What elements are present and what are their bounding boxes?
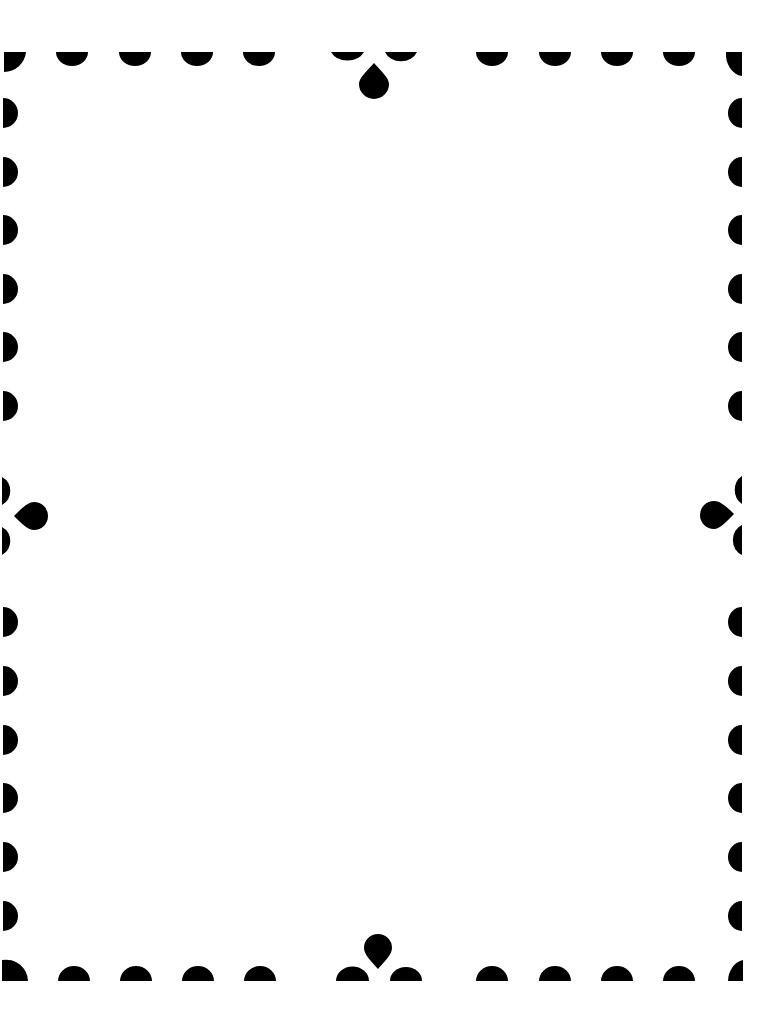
scallop-icon xyxy=(3,783,18,813)
scallop-icon xyxy=(3,901,18,931)
scallop-icon xyxy=(244,966,276,981)
scallop-icon xyxy=(728,842,742,872)
top-center-ornament xyxy=(331,52,417,99)
left-middle-ornament xyxy=(2,477,48,555)
scallop-icon xyxy=(728,901,742,931)
decorative-border-frame xyxy=(0,0,784,1029)
scallop-icon xyxy=(3,666,18,696)
scallop-icon xyxy=(728,157,742,187)
scallop-icon xyxy=(56,52,88,66)
scallop-icon xyxy=(728,666,742,696)
scallop-icon xyxy=(539,52,571,66)
scallop-icon xyxy=(3,157,18,187)
top-right-corner-ornament xyxy=(726,52,742,76)
scallop-icon xyxy=(728,98,742,128)
scallop-icon xyxy=(601,52,633,66)
scallop-icon xyxy=(728,607,742,637)
top-left-corner-ornament xyxy=(4,52,26,72)
scallop-icon xyxy=(3,725,18,755)
scallop-icon xyxy=(3,274,18,304)
scallop-icon xyxy=(3,215,18,245)
scallop-icon xyxy=(476,52,508,66)
scallop-icon xyxy=(663,966,695,981)
scallop-icon xyxy=(120,966,152,981)
scallop-icon xyxy=(728,332,742,362)
scallop-icon xyxy=(3,607,18,637)
scallop-icon xyxy=(728,215,742,245)
scallop-icon xyxy=(182,966,214,981)
scallop-icon xyxy=(476,966,508,981)
bottom-right-corner-ornament xyxy=(728,960,743,981)
scallop-icon xyxy=(601,966,633,981)
scallop-icon xyxy=(728,783,742,813)
scallop-icon xyxy=(3,98,18,128)
scallop-icon xyxy=(181,52,213,66)
scallop-icon xyxy=(539,966,571,981)
bottom-scallop-row xyxy=(58,966,695,981)
right-middle-ornament xyxy=(700,476,742,555)
scallop-icon xyxy=(728,391,742,421)
scallop-icon xyxy=(728,274,742,304)
scallop-icon xyxy=(663,52,695,66)
scallop-icon xyxy=(119,52,151,66)
scallop-icon xyxy=(243,52,275,66)
scallop-icon xyxy=(3,391,18,421)
scallop-icon xyxy=(3,842,18,872)
scallop-icon xyxy=(728,725,742,755)
scallop-icon xyxy=(3,332,18,362)
bottom-left-corner-ornament xyxy=(2,960,28,981)
bottom-center-ornament xyxy=(336,934,422,981)
top-scallop-row xyxy=(56,52,695,66)
scallop-icon xyxy=(58,966,90,981)
